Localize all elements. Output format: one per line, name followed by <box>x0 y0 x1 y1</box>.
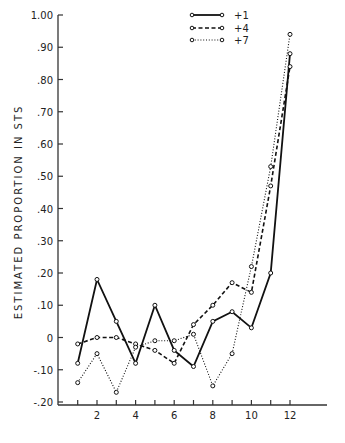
data-point <box>230 281 234 285</box>
legend-label: +1 <box>234 10 249 21</box>
data-point <box>288 32 292 36</box>
data-point <box>192 332 196 336</box>
legend-marker <box>220 38 224 42</box>
y-tick-label: 1.00 <box>31 10 53 21</box>
legend-marker <box>190 26 194 30</box>
y-tick-label: .60 <box>37 139 53 150</box>
data-point <box>211 303 215 307</box>
data-point <box>114 336 118 340</box>
series-line-dotted <box>78 34 290 392</box>
data-point <box>153 348 157 352</box>
x-tick-label: 10 <box>245 410 258 421</box>
data-point <box>288 65 292 69</box>
x-tick-label: 4 <box>132 410 138 421</box>
data-point <box>269 165 273 169</box>
x-tick-label: 2 <box>94 410 100 421</box>
data-point <box>114 390 118 394</box>
data-point <box>249 326 253 330</box>
data-point <box>192 365 196 369</box>
y-tick-label: .70 <box>37 107 53 118</box>
data-point <box>153 339 157 343</box>
data-point <box>230 352 234 356</box>
legend-label: +7 <box>234 35 249 46</box>
data-point <box>172 348 176 352</box>
data-point <box>172 361 176 365</box>
series-group <box>76 32 292 394</box>
data-point <box>249 290 253 294</box>
data-point <box>249 265 253 269</box>
legend-marker <box>190 13 194 17</box>
data-point <box>95 277 99 281</box>
y-tick-label: .50 <box>37 171 53 182</box>
data-point <box>211 384 215 388</box>
data-point <box>76 381 80 385</box>
data-point <box>95 336 99 340</box>
y-tick-label: .10 <box>37 300 53 311</box>
y-tick-label: .30 <box>37 236 53 247</box>
data-point <box>76 342 80 346</box>
data-point <box>114 319 118 323</box>
y-tick-label: 0 <box>47 333 53 344</box>
series-line-dashed <box>78 67 290 364</box>
legend-marker <box>220 13 224 17</box>
data-point <box>172 339 176 343</box>
x-tick-label: 12 <box>284 410 297 421</box>
data-point <box>95 352 99 356</box>
data-point <box>269 184 273 188</box>
data-point <box>76 361 80 365</box>
data-point <box>134 345 138 349</box>
series-line-solid <box>78 54 290 367</box>
x-tick-label: 6 <box>171 410 177 421</box>
y-tick-label: .80 <box>37 75 53 86</box>
data-point <box>211 319 215 323</box>
legend: +1+4+7 <box>190 10 249 46</box>
legend-marker <box>220 26 224 30</box>
y-tick-label: -.20 <box>33 397 53 408</box>
data-point <box>192 323 196 327</box>
y-tick-label: .40 <box>37 204 53 215</box>
legend-label: +4 <box>234 23 249 34</box>
y-axis-label: ESTIMATED PROPORTION IN STS <box>13 105 24 320</box>
line-chart: 1.00.90.80.70.60.50.40.30.20.100-.10-.20… <box>0 0 345 443</box>
y-tick-label: -.10 <box>33 365 53 376</box>
data-point <box>153 303 157 307</box>
x-tick-label: 8 <box>210 410 216 421</box>
data-point <box>269 271 273 275</box>
y-tick-label: .90 <box>37 42 53 53</box>
data-point <box>230 310 234 314</box>
data-point <box>288 52 292 56</box>
legend-marker <box>190 38 194 42</box>
y-tick-label: .20 <box>37 268 53 279</box>
axes: 1.00.90.80.70.60.50.40.30.20.100-.10-.20… <box>31 10 327 421</box>
data-point <box>134 361 138 365</box>
